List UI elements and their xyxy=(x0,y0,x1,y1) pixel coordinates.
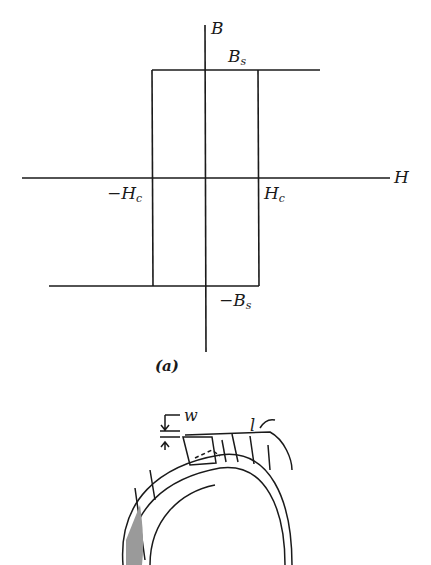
hc-label: Hc xyxy=(264,185,285,204)
loop-left xyxy=(152,70,153,286)
bs-label: Bs xyxy=(228,48,246,67)
length-label: l xyxy=(250,418,255,434)
neg-hc-label: −Hc xyxy=(107,185,142,204)
toroid-core xyxy=(123,415,292,565)
neg-bs-label: −Bs xyxy=(219,292,251,311)
loop-right xyxy=(258,70,259,286)
toroid-shading xyxy=(126,505,143,565)
b-axis-label: B xyxy=(211,20,224,37)
width-label: w xyxy=(184,408,198,424)
hysteresis-diagram xyxy=(0,0,431,565)
b-axis xyxy=(205,25,206,352)
h-axis-label: H xyxy=(394,169,409,186)
panel-a-caption: (a) xyxy=(155,357,179,375)
